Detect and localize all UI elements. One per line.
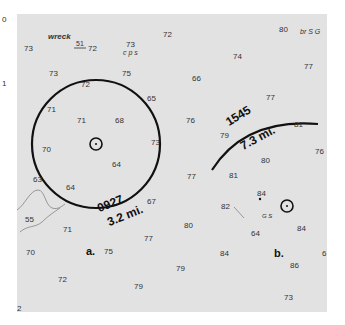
depth-sounding: 79 [220, 132, 229, 140]
depth-sounding: 74 [233, 53, 242, 61]
depth-sounding: 64 [66, 184, 75, 192]
depth-sounding: 72 [163, 31, 172, 39]
depth-sounding: 84 [220, 250, 229, 258]
depth-sounding: 80 [184, 222, 193, 230]
object-dot-a [95, 143, 97, 145]
depth-sounding: 77 [187, 173, 196, 181]
depth-sounding: 2 [17, 305, 21, 313]
bottom-quality-gs: G S [262, 213, 272, 219]
wreck-label: wreck [48, 33, 71, 41]
depth-sounding: 72 [81, 81, 90, 89]
fix-b-label: b. [274, 248, 284, 259]
depth-sounding: 72 [88, 45, 97, 53]
depth-sounding: 63 [33, 176, 42, 184]
depth-sounding: 72 [58, 276, 67, 284]
depth-sounding: 64 [112, 161, 121, 169]
bottom-quality-brsg: br S G [300, 28, 320, 35]
depth-sounding: 67 [147, 198, 156, 206]
depth-sounding: 81 [294, 121, 303, 129]
depth-sounding: 86 [290, 262, 299, 270]
sounding-dot [259, 198, 261, 200]
depth-contour [17, 190, 65, 210]
depth-sounding: 81 [229, 172, 238, 180]
depth-sounding: 73 [49, 70, 58, 78]
depth-sounding: 65 [147, 95, 156, 103]
depth-sounding: 0 [2, 16, 6, 24]
depth-sounding: 76 [186, 117, 195, 125]
depth-sounding: 68 [115, 117, 124, 125]
depth-sounding: 55 [25, 216, 34, 224]
depth-sounding: 73 [24, 45, 33, 53]
depth-sounding: 71 [63, 226, 72, 234]
depth-sounding: 79 [134, 283, 143, 291]
depth-sounding: 66 [192, 75, 201, 83]
depth-sounding: 80 [279, 26, 288, 34]
depth-sounding: 77 [266, 94, 275, 102]
chart-lines [0, 0, 345, 325]
depth-sounding: 84 [297, 225, 306, 233]
depth-sounding: 64 [251, 230, 260, 238]
depth-sounding: 1 [2, 80, 6, 88]
depth-sounding: 71 [77, 117, 86, 125]
depth-sounding: 84 [257, 190, 266, 198]
depth-sounding: 77 [304, 63, 313, 71]
depth-sounding: 73 [151, 139, 160, 147]
depth-sounding: 73 [284, 294, 293, 302]
bottom-quality-cps: c p s [123, 49, 138, 56]
depth-sounding: 75 [104, 248, 113, 256]
fix-a-label: a. [86, 246, 95, 257]
depth-sounding: 6 [322, 250, 326, 258]
depth-sounding: 82 [221, 203, 230, 211]
wreck-depth: 51 [76, 40, 84, 47]
bottom-line [234, 207, 244, 218]
depth-sounding: 71 [47, 106, 56, 114]
depth-sounding: 70 [26, 249, 35, 257]
depth-sounding: 73 [126, 41, 135, 49]
depth-sounding: 79 [176, 265, 185, 273]
object-dot-b [286, 205, 288, 207]
depth-sounding: 80 [261, 157, 270, 165]
depth-sounding: 77 [144, 235, 153, 243]
depth-sounding: 75 [122, 70, 131, 78]
depth-sounding: 76 [315, 148, 324, 156]
depth-sounding: 70 [42, 146, 51, 154]
